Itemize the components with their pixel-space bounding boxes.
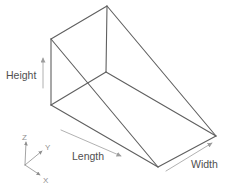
width-label: Width <box>191 158 218 170</box>
diagram-canvas: Height Length Width Z Y X <box>0 0 228 189</box>
y-axis-label: Y <box>45 143 51 152</box>
x-axis-label: X <box>43 176 49 185</box>
height-label: Height <box>6 69 36 81</box>
wedge-diagram: Height Length Width Z Y X <box>0 0 228 189</box>
length-label: Length <box>72 150 104 162</box>
axis-triad <box>25 142 42 175</box>
z-axis-label: Z <box>22 133 27 142</box>
wedge-edges <box>51 6 216 167</box>
